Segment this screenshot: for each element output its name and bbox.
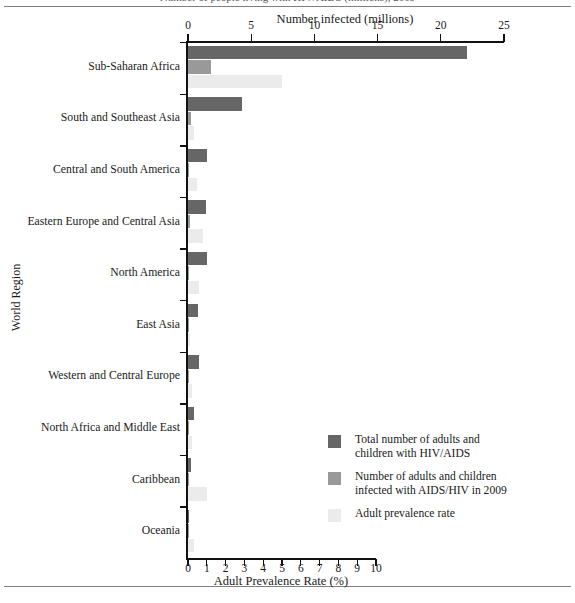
legend-swatch-icon [328, 472, 341, 485]
top-tick-label: 15 [363, 19, 393, 31]
chart-legend: Total number of adults and children with… [328, 433, 558, 544]
bar-new_infections_2009 [188, 266, 189, 280]
bar-total_infected [188, 458, 191, 472]
bar-adult_prevalence_rate [188, 333, 190, 347]
category-label: Eastern Europe and Central Asia [10, 215, 184, 228]
bar-new_infections_2009 [188, 473, 189, 487]
bar-new_infections_2009 [188, 421, 189, 435]
bar-adult_prevalence_rate [188, 487, 207, 501]
category-label: South and Southeast Asia [10, 111, 184, 124]
top-tick-mark [187, 34, 188, 42]
top-tick-label: 5 [236, 19, 266, 31]
bar-new_infections_2009 [188, 60, 211, 74]
bar-adult_prevalence_rate [188, 436, 192, 450]
top-tick-label: 25 [489, 19, 519, 31]
top-tick-label: 20 [426, 19, 456, 31]
bottom-tick-label: 10 [361, 562, 391, 574]
category-labels: Sub-Saharan AfricaSouth and Southeast As… [0, 0, 184, 603]
bar-adult_prevalence_rate [188, 384, 192, 398]
top-tick-mark [377, 34, 378, 42]
bar-new_infections_2009 [188, 524, 189, 538]
bar-adult_prevalence_rate [188, 75, 282, 89]
legend-swatch-icon [328, 435, 341, 448]
bar-new_infections_2009 [188, 370, 189, 384]
bottom-axis-title: Adult Prevalence Rate (%) [187, 574, 375, 589]
top-axis-line [187, 41, 504, 43]
legend-item: Number of adults and children infected w… [328, 470, 558, 498]
top-tick-mark [503, 34, 504, 42]
legend-label: Number of adults and children infected w… [355, 470, 558, 498]
bar-total_infected [188, 97, 242, 111]
bar-adult_prevalence_rate [188, 126, 194, 140]
bar-total_infected [188, 355, 199, 369]
bar-total_infected [188, 407, 194, 421]
category-label: Central and South America [10, 163, 184, 176]
top-tick-mark [440, 34, 441, 42]
category-label: North America [10, 266, 184, 279]
bar-total_infected [188, 200, 206, 214]
category-label: Caribbean [10, 473, 184, 486]
bar-new_infections_2009 [188, 215, 190, 229]
bar-total_infected [188, 304, 198, 318]
bar-total_infected [188, 46, 467, 60]
bar-new_infections_2009 [188, 163, 189, 177]
category-label: East Asia [10, 318, 184, 331]
bar-new_infections_2009 [188, 112, 191, 126]
category-label: Western and Central Europe [10, 369, 184, 382]
legend-item: Adult prevalence rate [328, 507, 558, 535]
bar-new_infections_2009 [188, 318, 189, 332]
bar-adult_prevalence_rate [188, 539, 194, 553]
bar-adult_prevalence_rate [188, 229, 203, 243]
category-label: Sub-Saharan Africa [10, 60, 184, 73]
legend-label: Total number of adults and children with… [355, 433, 558, 461]
legend-swatch-icon [328, 509, 341, 522]
legend-item: Total number of adults and children with… [328, 433, 558, 461]
top-tick-mark [251, 34, 252, 42]
legend-label: Adult prevalence rate [355, 507, 558, 521]
chart-figure: Number of people living with HIV/AIDS (m… [0, 0, 575, 603]
category-label: North Africa and Middle East [10, 421, 184, 434]
category-label: Oceania [10, 524, 184, 537]
top-tick-mark [314, 34, 315, 42]
bar-total_infected [188, 252, 207, 266]
bar-adult_prevalence_rate [188, 178, 197, 192]
bar-adult_prevalence_rate [188, 281, 199, 295]
bar-total_infected [188, 149, 207, 163]
top-tick-label: 10 [299, 19, 329, 31]
bar-total_infected [188, 510, 189, 524]
